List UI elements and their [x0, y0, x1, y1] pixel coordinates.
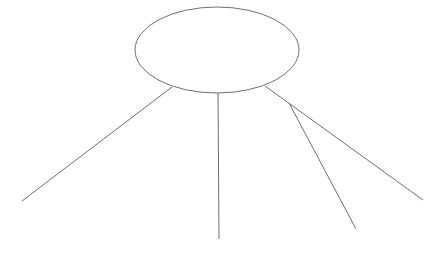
root-node-ellipse — [135, 7, 299, 93]
right-branch-line — [265, 86, 423, 200]
sub-branch-line — [289, 103, 356, 229]
left-branch-line — [22, 87, 172, 201]
center-branch-line — [218, 93, 219, 239]
tree-diagram — [0, 0, 447, 254]
